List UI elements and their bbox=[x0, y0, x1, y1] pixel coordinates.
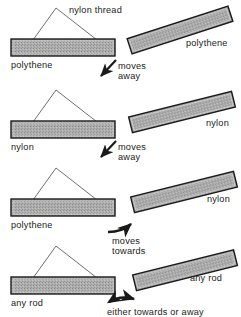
panel-2-suspended-rod-label: nylon bbox=[11, 142, 34, 152]
panel-1: nylon thread polythene polythene moves a… bbox=[11, 5, 233, 81]
panel-3-motion-label-line1: moves bbox=[112, 236, 140, 246]
panel-1-motion-arrow bbox=[101, 60, 116, 76]
panel-1-held-rod-label: polythene bbox=[186, 38, 228, 48]
panel-4: any rod any rod either towards or away bbox=[11, 246, 237, 317]
panel-3-held-rod bbox=[131, 171, 238, 212]
panel-4-suspended-rod-label: any rod bbox=[11, 298, 43, 308]
panel-1-motion-label-line1: moves bbox=[118, 61, 146, 71]
panel-3-motion-arrow bbox=[108, 224, 131, 232]
nylon-thread-label: nylon thread bbox=[69, 5, 122, 15]
panel-3-suspended-rod-label: polythene bbox=[11, 220, 53, 230]
panel-2-held-rod-label: nylon bbox=[206, 118, 229, 128]
panel-2-motion-label-line2: away bbox=[118, 152, 140, 162]
panel-3-suspended-rod bbox=[11, 199, 115, 216]
panel-4-motion-label-line1: either towards or away bbox=[107, 307, 204, 317]
panel-1-suspended-rod-label: polythene bbox=[11, 60, 53, 70]
electrostatics-diagram: nylon thread polythene polythene moves a… bbox=[0, 0, 241, 317]
panel-3-held-rod-label: nylon bbox=[207, 194, 230, 204]
panel-3: polythene nylon moves towards bbox=[11, 168, 237, 256]
panel-2-suspended-rod bbox=[11, 121, 115, 138]
panel-1-suspended-rod bbox=[11, 39, 115, 56]
panel-4-motion-arrow bbox=[109, 298, 134, 302]
diagram-canvas: nylon thread polythene polythene moves a… bbox=[0, 0, 241, 317]
panel-1-motion-label-line2: away bbox=[118, 71, 140, 81]
panel-2: nylon nylon moves away bbox=[11, 90, 235, 162]
panel-4-suspended-rod bbox=[11, 277, 115, 294]
panel-3-motion-label-line2: towards bbox=[112, 246, 146, 256]
panel-4-held-rod bbox=[133, 250, 238, 291]
panel-4-held-rod-label: any rod bbox=[190, 273, 222, 283]
panel-2-motion-label-line1: moves bbox=[118, 142, 146, 152]
panel-2-motion-arrow bbox=[101, 141, 116, 157]
